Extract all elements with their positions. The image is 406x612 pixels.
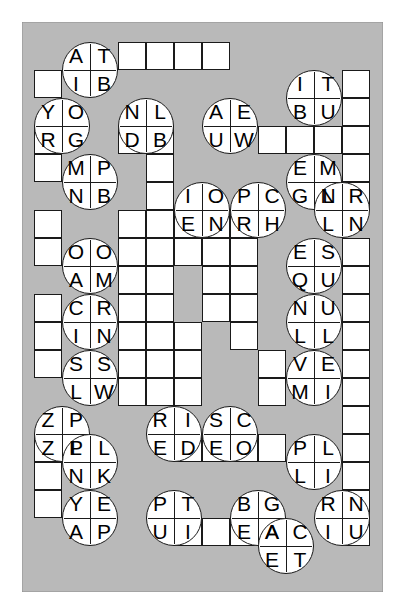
bubble-letter[interactable]: I [174, 518, 202, 546]
bubble-letter[interactable]: I [174, 406, 202, 434]
bubble-letter[interactable]: V [286, 350, 314, 378]
bubble-letter[interactable]: T [286, 546, 314, 574]
bubble-letter[interactable]: A [62, 518, 90, 546]
bubble-letter[interactable]: B [146, 126, 174, 154]
bubble-letter[interactable]: L [62, 434, 90, 462]
bubble-letter[interactable]: O [62, 238, 90, 266]
bubble-letter[interactable]: M [90, 266, 118, 294]
bubble-letter[interactable]: Q [286, 266, 314, 294]
bubble-letter[interactable]: T [90, 42, 118, 70]
bubble-letter[interactable]: N [118, 98, 146, 126]
bubble-letter[interactable]: L [62, 378, 90, 406]
bubble-letter[interactable]: I [62, 70, 90, 98]
bubble-letter[interactable]: E [286, 154, 314, 182]
bubble-letter[interactable]: B [286, 98, 314, 126]
bubble-letter[interactable]: A [258, 518, 286, 546]
bubble-letter[interactable]: A [62, 266, 90, 294]
bubble-letter[interactable]: L [286, 322, 314, 350]
bubble-letter[interactable]: G [258, 490, 286, 518]
bubble-letter[interactable]: E [146, 434, 174, 462]
bubble-letter[interactable]: N [286, 294, 314, 322]
bubble-letter[interactable]: I [314, 378, 342, 406]
bubble-letter[interactable]: G [62, 126, 90, 154]
bubble-letter[interactable]: I [174, 182, 202, 210]
bubble-letter[interactable]: S [90, 350, 118, 378]
bubble-letter[interactable]: C [230, 406, 258, 434]
bubble-letter[interactable]: P [90, 154, 118, 182]
bubble-letter[interactable]: I [314, 518, 342, 546]
bubble-letter[interactable]: L [314, 210, 342, 238]
bubble-letter[interactable]: R [34, 126, 62, 154]
bubble-letter[interactable]: W [230, 126, 258, 154]
bubble-letter[interactable]: T [174, 490, 202, 518]
bubble-letter[interactable]: O [62, 98, 90, 126]
bubble-letter[interactable]: K [90, 462, 118, 490]
bubble-letter[interactable]: H [258, 210, 286, 238]
bubble-letter[interactable]: D [174, 434, 202, 462]
bubble-letter[interactable]: L [314, 434, 342, 462]
bubble-letter[interactable]: R [90, 294, 118, 322]
bubble-letter[interactable]: A [62, 42, 90, 70]
bubble-letter[interactable]: B [90, 182, 118, 210]
bubble-letter[interactable]: N [62, 462, 90, 490]
bubble-letter[interactable]: M [314, 154, 342, 182]
bubble-letter[interactable]: W [90, 378, 118, 406]
bubble-letter[interactable]: M [286, 378, 314, 406]
bubble-letter[interactable]: P [146, 490, 174, 518]
bubble-letter[interactable]: M [62, 154, 90, 182]
bubble-letter[interactable]: G [286, 182, 314, 210]
bubble-letter[interactable]: B [90, 70, 118, 98]
bubble-letter[interactable]: C [286, 518, 314, 546]
bubble-letter[interactable]: B [230, 490, 258, 518]
bubble-letter[interactable]: R [230, 210, 258, 238]
bubble-letter[interactable]: P [230, 182, 258, 210]
bubble-letter[interactable]: L [314, 182, 342, 210]
bubble-letter[interactable]: I [314, 462, 342, 490]
bubble-letter[interactable]: C [258, 182, 286, 210]
bubble-letter[interactable]: R [342, 182, 370, 210]
bubble-letter[interactable]: L [90, 434, 118, 462]
bubble-letter[interactable]: I [286, 70, 314, 98]
bubble-letter[interactable]: U [314, 98, 342, 126]
bubble-letter[interactable]: N [342, 210, 370, 238]
bubble-letter[interactable]: D [118, 126, 146, 154]
bubble-letter[interactable]: E [286, 238, 314, 266]
bubble-letter[interactable]: Y [62, 490, 90, 518]
bubble-letter[interactable]: L [314, 322, 342, 350]
bubble-letter[interactable]: U [342, 518, 370, 546]
bubble-letter[interactable]: N [62, 182, 90, 210]
bubble-letter[interactable]: Z [34, 434, 62, 462]
bubble-letter[interactable]: O [90, 238, 118, 266]
bubble-letter[interactable]: S [62, 350, 90, 378]
bubble-letter[interactable]: P [90, 518, 118, 546]
bubble-letter[interactable]: O [202, 182, 230, 210]
bubble-letter[interactable]: U [314, 294, 342, 322]
bubble-letter[interactable]: N [202, 210, 230, 238]
bubble-letter[interactable]: S [314, 238, 342, 266]
bubble-letter[interactable]: E [230, 518, 258, 546]
bubble-letter[interactable]: O [230, 434, 258, 462]
bubble-letter[interactable]: S [202, 406, 230, 434]
bubble-letter[interactable]: L [146, 98, 174, 126]
bubble-letter[interactable]: T [314, 70, 342, 98]
bubble-letter[interactable]: N [90, 322, 118, 350]
bubble-letter[interactable]: C [62, 294, 90, 322]
bubble-letter[interactable]: E [230, 98, 258, 126]
bubble-letter[interactable]: E [174, 210, 202, 238]
bubble-letter[interactable]: R [314, 490, 342, 518]
bubble-letter[interactable]: P [62, 406, 90, 434]
bubble-letter[interactable]: P [286, 434, 314, 462]
bubble-letter[interactable]: A [202, 98, 230, 126]
bubble-letter[interactable]: Y [34, 98, 62, 126]
bubble-letter[interactable]: Z [34, 406, 62, 434]
bubble-letter[interactable]: E [314, 350, 342, 378]
bubble-letter[interactable]: U [202, 126, 230, 154]
bubble-letter[interactable]: E [258, 546, 286, 574]
bubble-letter[interactable]: I [62, 322, 90, 350]
bubble-letter[interactable]: E [202, 434, 230, 462]
bubble-letter[interactable]: U [146, 518, 174, 546]
bubble-letter[interactable]: U [314, 266, 342, 294]
bubble-letter[interactable]: N [342, 490, 370, 518]
bubble-letter[interactable]: R [146, 406, 174, 434]
bubble-letter[interactable]: E [90, 490, 118, 518]
